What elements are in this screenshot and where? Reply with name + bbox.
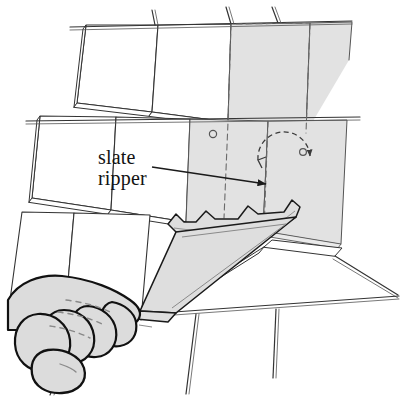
slate-top-middle [149,24,231,126]
slate-ripper-figure: slate ripper [0,0,410,397]
callout-label-line-2: ripper [98,167,147,190]
callout-label-line-1: slate [98,146,136,168]
slate-top-left [74,25,158,116]
slate-ripper-illustration: slate ripper [0,0,410,397]
